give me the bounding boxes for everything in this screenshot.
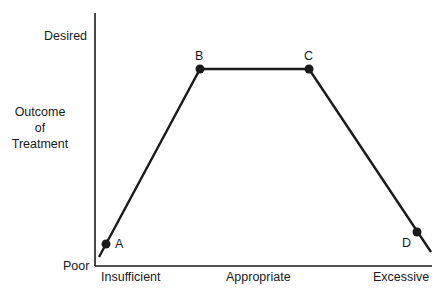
outcome-curve xyxy=(99,69,431,257)
x-tick-insufficient: Insufficient xyxy=(101,270,161,284)
y-axis-label-line-3: Treatment xyxy=(0,136,80,152)
y-axis-label-line-1: Outcome xyxy=(0,104,80,120)
x-tick-excessive: Excessive xyxy=(373,270,429,284)
y-axis-label: Outcome of Treatment xyxy=(0,104,80,152)
point-a-marker xyxy=(102,240,111,249)
point-c-marker xyxy=(305,65,314,74)
y-tick-desired: Desired xyxy=(44,29,87,43)
point-a-label: A xyxy=(115,237,123,251)
point-c-label: C xyxy=(304,49,313,63)
x-tick-appropriate: Appropriate xyxy=(226,270,291,284)
point-b-label: B xyxy=(195,49,203,63)
point-b-marker xyxy=(196,65,205,74)
point-d-label: D xyxy=(402,236,411,250)
point-d-marker xyxy=(413,228,422,237)
y-tick-poor: Poor xyxy=(63,259,89,273)
y-axis-label-line-2: of xyxy=(0,120,80,136)
